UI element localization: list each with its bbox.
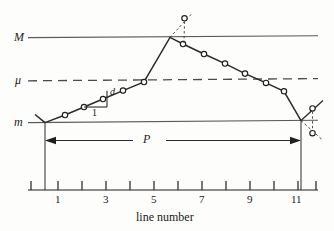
axis-tick-label: 1 [55,194,61,205]
level-line-m [28,120,318,122]
level-label-m: m [14,116,23,128]
data-point [242,71,247,76]
wrap-point [182,16,187,21]
axis-tick-label: 5 [151,194,157,205]
wrap-point [310,106,315,111]
axis-tick-label: 3 [103,194,109,205]
x-axis [28,181,318,190]
level-label-mu: μ [15,74,21,86]
slope-run-label: 1 [92,108,97,118]
axis-tick-label: 7 [199,194,205,205]
data-point [263,80,268,85]
period-label: P [143,133,150,145]
data-point [141,79,146,84]
data-point [120,88,125,93]
level-line-mu [28,79,318,81]
level-line-M [28,36,318,38]
wrap-notch-left-min [35,115,45,123]
figure-canvas: M μ m d 1 P 1 3 5 7 9 11 line number [0,0,334,231]
period-measure [45,121,301,190]
data-point [222,61,227,66]
axis-tick-label: 11 [291,194,302,205]
data-point [62,112,67,117]
slope-rise-label: d [110,87,115,97]
data-point [180,41,185,46]
data-point [281,89,286,94]
data-point [201,51,206,56]
axis-tick-label: 9 [247,194,253,205]
level-label-M: M [14,31,24,43]
x-axis-caption: line number [136,211,194,223]
data-point [100,96,105,101]
wrap-point [310,131,315,136]
plot-svg [0,0,334,231]
